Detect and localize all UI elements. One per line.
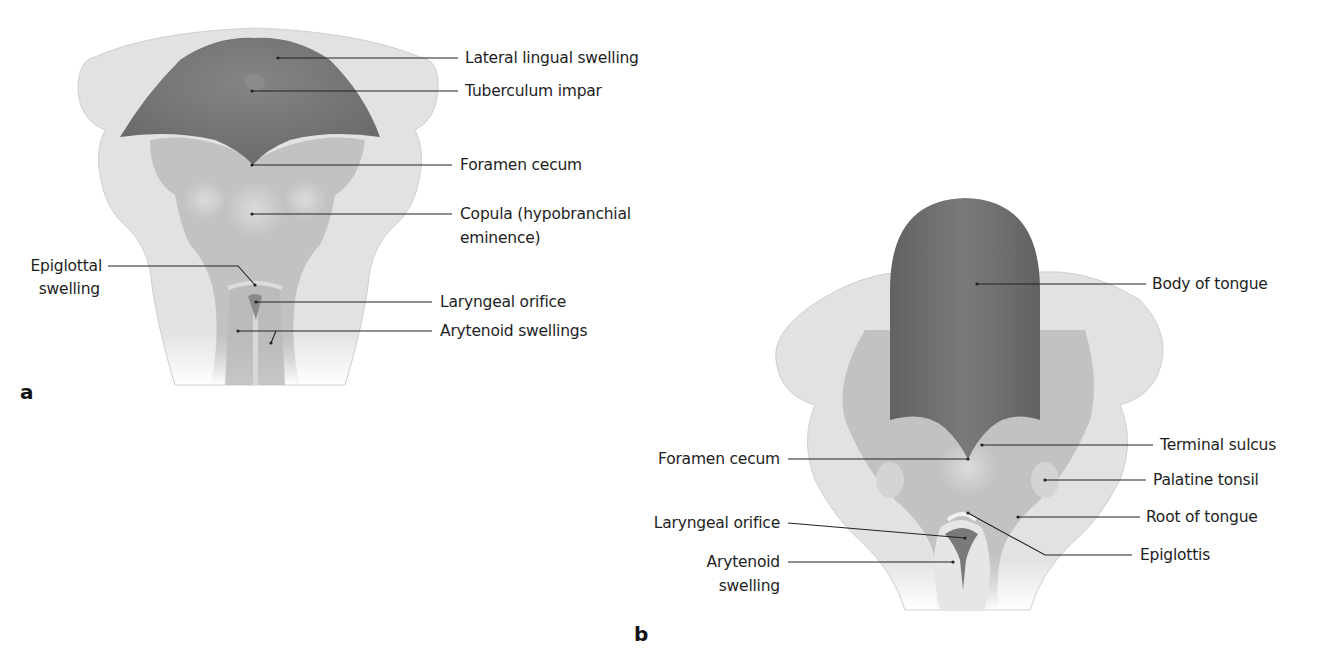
embryonic-tongue-figure: Lateral lingual swelling Tuberculum impa… [0,0,1317,661]
label-arytenoid-line2: swelling [600,576,780,596]
label-lateral-lingual-swelling: Lateral lingual swelling [465,48,639,68]
label-arytenoid-swellings: Arytenoid swellings [440,321,587,341]
label-epiglottal-line1: Epiglottal [0,256,102,276]
label-foramen-cecum-a: Foramen cecum [460,155,582,175]
label-epiglottal-line2: swelling [0,279,100,299]
panel-b-illustration [776,198,1163,610]
label-laryngeal-orifice-b: Laryngeal orifice [600,513,780,533]
label-tuberculum-impar: Tuberculum impar [465,81,602,101]
panel-letter-b: b [634,622,648,646]
label-palatine-tonsil: Palatine tonsil [1153,470,1259,490]
label-arytenoid-line1: Arytenoid [600,552,780,572]
label-epiglottis: Epiglottis [1140,545,1210,565]
label-copula-line2: eminence) [460,228,540,248]
label-terminal-sulcus: Terminal sulcus [1160,435,1276,455]
label-body-of-tongue: Body of tongue [1152,274,1268,294]
label-foramen-cecum-b: Foramen cecum [600,449,780,469]
panel-letter-a: a [20,380,34,404]
label-copula-line1: Copula (hypobranchial [460,204,631,224]
label-root-of-tongue: Root of tongue [1146,507,1258,527]
label-laryngeal-orifice-a: Laryngeal orifice [440,292,566,312]
